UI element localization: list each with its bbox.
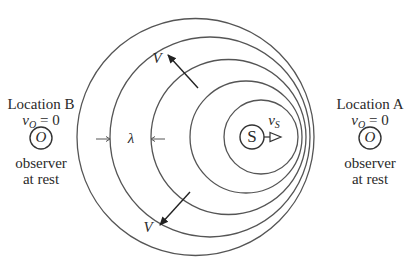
source-velocity-arrow-icon — [270, 133, 281, 142]
doppler-diagram — [0, 0, 412, 273]
location-b-caption-2: at rest — [0, 171, 82, 188]
location-b-title: Location B — [0, 96, 82, 113]
location-a-caption-2: at rest — [329, 171, 411, 188]
observer-b-symbol: O — [33, 129, 49, 146]
wave-velocity-label-top: V — [150, 50, 164, 67]
source-label: S — [244, 127, 260, 147]
location-b-caption-1: observer — [0, 155, 82, 172]
wavelength-label: λ — [124, 130, 138, 147]
wave-velocity-label-bottom: V — [141, 219, 155, 236]
wavefront-3 — [151, 60, 306, 215]
location-a-caption-1: observer — [329, 155, 411, 172]
wave-velocity-arrow-down — [160, 192, 190, 225]
source-velocity-label: vS — [262, 112, 286, 133]
location-a-title: Location A — [329, 96, 411, 113]
observer-a-symbol: O — [362, 129, 378, 146]
